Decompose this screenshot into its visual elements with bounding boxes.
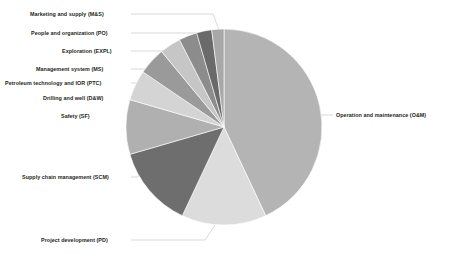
pie-slice-label: Supply chain management (SCM) xyxy=(22,174,109,181)
pie-slice-label: Management system (MS) xyxy=(36,66,103,73)
pie-slice-group xyxy=(126,29,322,225)
pie-chart-figure: Marketing and supply (M&S)People and org… xyxy=(0,0,449,254)
pie-slice-label: Safety (SF) xyxy=(61,113,90,120)
pie-slice-label: Operation and maintenance (O&M) xyxy=(336,112,426,119)
pie-chart-canvas xyxy=(0,0,449,254)
pie-slice-label: Petroleum technology and IOR (PTC) xyxy=(5,80,101,87)
leader-line xyxy=(131,225,215,240)
leader-line xyxy=(131,14,219,30)
pie-slice-label: Exploration (EXPL) xyxy=(62,48,112,55)
pie-slice-label: Project development (PD) xyxy=(41,237,108,244)
pie-slice-label: People and organization (PO) xyxy=(31,30,108,37)
pie-slice-label: Marketing and supply (M&S) xyxy=(30,11,104,18)
pie-slice-label: Drilling and well (D&W) xyxy=(43,95,103,102)
